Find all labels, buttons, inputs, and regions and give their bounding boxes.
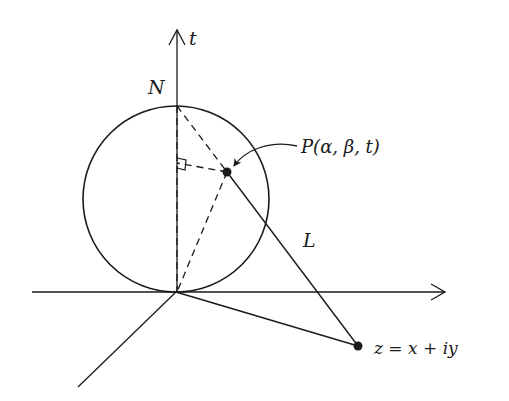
point-z-label: z = x + iy <box>373 338 458 358</box>
point-z <box>354 342 363 351</box>
x-axis <box>32 284 445 300</box>
t-axis-label: t <box>189 27 197 49</box>
right-angle-marker <box>177 158 186 170</box>
line-L-label: L <box>302 229 316 251</box>
pointer-arrow-icon <box>234 144 297 166</box>
point-P-label: P(α, β, t) <box>300 136 380 157</box>
dashed-chord-P-to-origin <box>177 172 227 292</box>
stereographic-projection-diagram: t N P(α, β, t) L z = x + iy <box>0 0 509 401</box>
point-P <box>223 168 232 177</box>
sphere <box>83 106 269 292</box>
y-axis <box>78 292 176 387</box>
north-pole-label: N <box>147 76 166 98</box>
dashed-perpendicular-foot <box>177 163 227 172</box>
segment-origin-to-z <box>176 292 358 346</box>
